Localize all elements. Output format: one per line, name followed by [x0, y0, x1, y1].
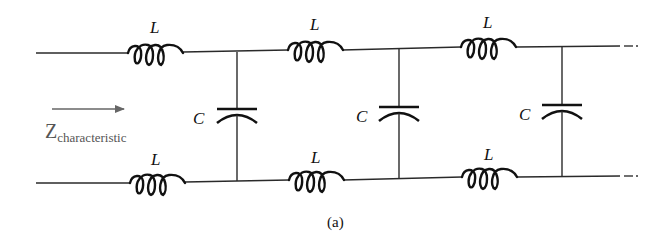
inductor-label-top-3: L: [482, 13, 492, 32]
figure-caption: (a): [327, 214, 344, 231]
capacitor-label-3: C: [519, 105, 531, 124]
impedance-label: Zcharacteristic: [45, 120, 127, 145]
inductor-label-bottom-3: L: [483, 145, 493, 164]
bottom-rail: [36, 176, 638, 183]
inductor-top-1: [128, 45, 183, 65]
inductor-top-3: [461, 39, 516, 59]
capacitor-2: [379, 49, 419, 178]
inductor-bottom-2: [289, 172, 344, 192]
top-rail: [36, 46, 638, 53]
inductor-top-2: [288, 42, 343, 62]
inductor-label-bottom-2: L: [310, 148, 320, 167]
inductor-label-bottom-1: L: [150, 150, 160, 169]
inductor-label-top-1: L: [149, 18, 159, 37]
capacitor-label-2: C: [356, 107, 368, 126]
lc-ladder-diagram: L L L L L L C C C Zcharact: [0, 0, 670, 249]
capacitor-1: [217, 52, 257, 181]
inductor-bottom-1: [130, 175, 185, 195]
capacitor-label-1: C: [193, 109, 205, 128]
capacitor-3: [542, 47, 582, 176]
inductor-label-top-2: L: [309, 15, 319, 34]
inductor-bottom-3: [462, 169, 517, 189]
